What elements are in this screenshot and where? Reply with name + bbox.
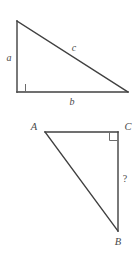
triangle1-label-b: b — [70, 96, 75, 107]
triangle1-label-c: c — [72, 42, 77, 53]
triangle2-label-B: B — [115, 236, 122, 247]
triangle2-label-C: C — [124, 121, 132, 132]
triangle1-label-a: a — [7, 52, 12, 63]
triangle2-label-unknown-side: ? — [123, 173, 128, 184]
triangle2-label-A: A — [30, 121, 38, 132]
geometry-figure-canvas: a c b A C B ? — [0, 0, 138, 258]
